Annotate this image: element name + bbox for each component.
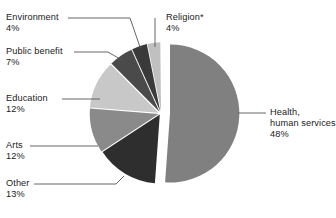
slice-label-religion: Religion* 4% — [166, 12, 204, 34]
slice-label-education-value: 12% — [6, 104, 48, 115]
slice-label-education: Education 12% — [6, 93, 48, 115]
slice-label-other-name: Other — [6, 178, 29, 189]
slice-label-education-name: Education — [6, 93, 48, 104]
slice-label-arts-name: Arts — [6, 140, 25, 151]
leader-line-other — [34, 176, 124, 184]
leader-line-public-benefit — [74, 52, 123, 61]
slice-label-health-name-line2: human services — [270, 118, 336, 129]
pie-slice-health-human-services[interactable] — [165, 44, 239, 182]
slice-label-public-benefit-name: Public benefit — [6, 46, 63, 57]
slice-label-environment: Environment 4% — [6, 12, 59, 34]
slice-label-other: Other 13% — [6, 178, 29, 200]
leader-line-environment — [68, 18, 141, 49]
slice-label-public-benefit: Public benefit 7% — [6, 46, 63, 68]
slice-label-environment-value: 4% — [6, 23, 59, 34]
slice-label-other-value: 13% — [6, 189, 29, 200]
slice-label-religion-value: 4% — [166, 23, 204, 34]
slice-label-public-benefit-value: 7% — [6, 57, 63, 68]
slice-label-environment-name: Environment — [6, 12, 59, 23]
slice-label-health-value: 48% — [270, 129, 336, 140]
slice-label-religion-name: Religion* — [166, 12, 204, 23]
slice-label-arts: Arts 12% — [6, 140, 25, 162]
slice-label-health-name-line1: Health, — [270, 107, 336, 118]
slice-label-health-human-services: Health, human services 48% — [270, 107, 336, 141]
slice-label-arts-value: 12% — [6, 151, 25, 162]
